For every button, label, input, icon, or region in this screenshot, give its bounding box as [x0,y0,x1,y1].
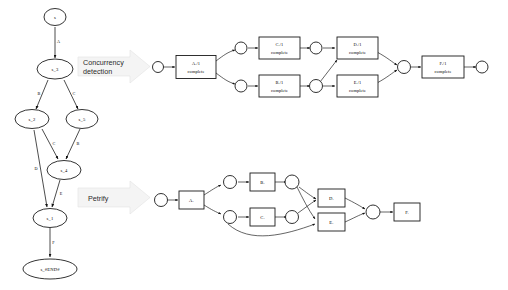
pn-top-transition-e[interactable]: E./1 complete [337,75,378,97]
pn-top-transition-c[interactable]: C./1 complete [259,37,300,59]
figure-canvas: s s_3 s_2 s_5 s_4 s_1 [0,0,508,290]
pn-bot-transition-d-label: D. [329,196,334,201]
pn-top-edge-a-p2 [216,73,235,84]
pn-top-transition-a[interactable]: A./1 complete [176,56,216,79]
pn-top-transition-e-shape[interactable] [337,75,378,97]
petrify-label: Petrify [88,194,109,203]
pn-top-place-start[interactable] [153,62,164,73]
pn-bot-edge-p3-d [299,187,316,199]
pn-top-transition-e-line2: complete [349,88,366,93]
ts-node-s1-label: s_1 [47,216,54,221]
pn-top-transition-f[interactable]: F./1 complete [422,56,464,78]
pn-top-edge-a-p1 [216,50,235,61]
ts-node-s3-label: s_3 [52,67,59,72]
pn-top-transition-a-line2: complete [188,69,205,74]
pn-top-transition-c-shape[interactable] [259,37,300,59]
pn-bot-transition-c-label: C. [260,215,265,220]
ts-node-send[interactable]: s_#END# [23,259,77,279]
pn-top-transition-b-shape[interactable] [259,75,300,97]
pn-top-transition-f-line2: complete [435,69,452,74]
pn-top-edge-e-p5 [377,70,397,83]
petri-net-concurrency: A./1 complete C./1 complete B./1 complet… [153,37,489,97]
pn-bot-transition-f[interactable]: F. [394,203,420,221]
ts-node-s5-label: s_5 [79,117,86,122]
pn-bot-place-3[interactable] [285,175,299,189]
pn-top-transition-b[interactable]: B./1 complete [259,75,300,97]
concurrency-label-line2: detection [83,67,112,76]
pn-top-transition-f-line1: F./1 [439,61,446,66]
pn-bot-edge-p4-d [298,200,316,213]
pn-bot-transition-e-label: E. [329,220,333,225]
ts-node-send-label: s_#END# [40,267,60,272]
pn-top-place-1[interactable] [235,42,247,54]
pn-top-transition-c-line1: C./1 [276,42,284,47]
pn-top-transition-a-line1: A./1 [192,61,200,66]
pn-top-transition-b-line2: complete [271,88,288,93]
ts-edge-label-f: F [52,240,55,245]
ts-edge-label-c2: C [53,141,56,146]
pn-top-transition-b-line1: B./1 [276,80,284,85]
ts-node-s3[interactable]: s_3 [37,59,73,79]
ts-edge-label-e: E [60,191,63,196]
ts-node-s1[interactable]: s_1 [33,209,67,228]
step-arrow-concurrency-detection: Concurrency detection [78,50,150,83]
ts-edge-label-b2: B [77,141,80,146]
pn-top-place-3[interactable] [310,42,322,54]
ts-node-s[interactable]: s [44,9,66,26]
ts-edge-label-a: A [57,39,60,44]
pn-top-place-5[interactable] [398,61,411,74]
pn-bot-place-4[interactable] [286,211,299,224]
pn-top-transition-e-line1: E./1 [354,80,362,85]
pn-bot-place-1[interactable] [224,176,237,189]
pn-bot-edge-e-p5 [345,213,365,222]
pn-bot-edge-d-p5 [345,198,365,209]
pn-top-transition-d-shape[interactable] [337,37,378,59]
pn-top-place-4[interactable] [310,80,323,93]
pn-bot-transition-e[interactable]: E. [318,213,345,231]
pn-bot-edge-a-p1 [204,185,221,195]
pn-top-transition-f-shape[interactable] [422,56,464,78]
ts-edge-s3-to-s5 [64,80,78,109]
pn-bot-edge-a-p2 [204,205,221,214]
petri-net-petrify: A. B. C. D. E. F. [155,173,421,236]
pn-bot-transition-a-label: A. [189,198,194,203]
pn-top-transition-c-line2: complete [271,50,288,55]
diagram-svg: s s_3 s_2 s_5 s_4 s_1 [0,0,508,290]
pn-bot-transition-c[interactable]: C. [250,208,275,226]
ts-node-s2-label: s_2 [29,117,36,122]
ts-edge-label-b1: B [38,91,41,96]
pn-top-edge-d-p5 [377,52,397,65]
ts-node-s2[interactable]: s_2 [15,110,49,129]
pn-bot-place-2[interactable] [224,211,237,224]
ts-edge-label-c1: C [73,91,76,96]
pn-top-place-end[interactable] [476,61,488,73]
pn-bot-transition-f-label: F. [405,210,409,215]
transition-system-graph: s s_3 s_2 s_5 s_4 s_1 [15,9,98,280]
pn-bot-place-start[interactable] [155,194,168,207]
pn-top-edge-p4-d [320,60,337,82]
ts-edge-label-d: D [34,166,37,171]
ts-edge-s2-to-s4 [42,129,58,159]
pn-top-place-2[interactable] [235,80,247,92]
ts-node-s4[interactable]: s_4 [47,161,81,180]
pn-bot-transition-b-label: B. [260,180,265,185]
pn-top-transition-d[interactable]: D./1 complete [337,37,378,59]
pn-bot-place-5[interactable] [366,205,380,219]
step-arrow-petrify: Petrify [78,181,150,214]
pn-top-transition-a-shape[interactable] [176,56,216,79]
pn-bot-transition-a[interactable]: A. [179,191,204,209]
ts-node-s5[interactable]: s_5 [66,110,98,129]
pn-top-transition-d-line2: complete [349,50,366,55]
ts-node-s-label: s [54,15,56,20]
pn-bot-transition-b[interactable]: B. [250,173,275,191]
pn-top-transition-d-line1: D./1 [353,42,361,47]
pn-bot-transition-d[interactable]: D. [318,189,345,207]
ts-node-s4-label: s_4 [61,168,68,173]
concurrency-label-line1: Concurrency [83,58,124,67]
